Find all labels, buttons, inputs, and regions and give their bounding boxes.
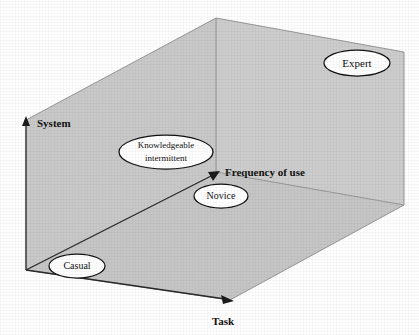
node-knowledgeable-intermittent[interactable]: Knowledgeable intermittent <box>119 135 213 169</box>
diagram-canvas: System Task Frequency of use Expert Know… <box>0 0 419 335</box>
node-knowledgeable-intermittent-label-line1: Knowledgeable <box>138 140 194 150</box>
axis-label-system: System <box>37 117 71 129</box>
node-casual-label: Casual <box>63 260 90 271</box>
axis-label-task: Task <box>212 315 235 327</box>
node-knowledgeable-intermittent-label-line2: intermittent <box>145 153 187 163</box>
node-novice[interactable]: Novice <box>194 184 248 208</box>
three-axis-diagram: System Task Frequency of use Expert Know… <box>0 0 419 335</box>
axis-label-frequency: Frequency of use <box>225 166 305 178</box>
node-novice-label: Novice <box>207 190 236 201</box>
node-casual[interactable]: Casual <box>49 254 105 278</box>
node-expert[interactable]: Expert <box>324 50 390 76</box>
node-expert-label: Expert <box>342 57 371 69</box>
